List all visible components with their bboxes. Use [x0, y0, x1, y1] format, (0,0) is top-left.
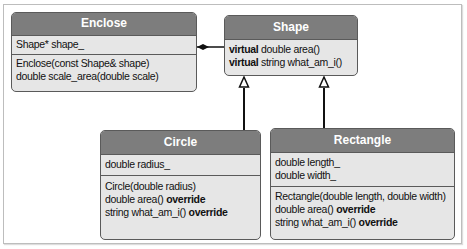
method: virtual double area() — [229, 43, 353, 56]
class-name: Shape — [225, 16, 357, 40]
composition-diamond-icon — [197, 44, 209, 50]
class-name: Rectangle — [271, 129, 454, 153]
class-name: Circle — [101, 131, 260, 155]
attributes-section: Shape* shape_ — [12, 36, 196, 54]
method: double area() override — [275, 203, 450, 216]
method: string what_am_i() override — [105, 206, 256, 219]
method: virtual string what_am_i() — [229, 56, 353, 69]
class-shape[interactable]: Shape virtual double area() virtual stri… — [224, 15, 358, 76]
method: double scale_area(double scale) — [16, 70, 192, 83]
method: double area() override — [105, 193, 256, 206]
attribute: double radius_ — [105, 158, 256, 171]
class-circle[interactable]: Circle double radius_ Circle(double radi… — [100, 130, 261, 240]
method: Enclose(const Shape& shape) — [16, 57, 192, 70]
methods-section: virtual double area() virtual string wha… — [225, 40, 357, 71]
methods-section: Rectangle(double length, double width) d… — [271, 186, 454, 231]
class-rectangle[interactable]: Rectangle double length_ double width_ R… — [270, 128, 455, 240]
methods-section: Circle(double radius) double area() over… — [101, 175, 260, 221]
attributes-section: double radius_ — [101, 155, 260, 175]
attribute: Shape* shape_ — [16, 38, 192, 51]
attribute: double width_ — [275, 169, 450, 182]
methods-section: Enclose(const Shape& shape) double scale… — [12, 54, 196, 85]
inheritance-arrow-icon — [240, 77, 249, 87]
method: Circle(double radius) — [105, 180, 256, 193]
attributes-section: double length_ double width_ — [271, 153, 454, 186]
class-name: Enclose — [12, 13, 196, 36]
method: Rectangle(double length, double width) — [275, 190, 450, 203]
class-enclose[interactable]: Enclose Shape* shape_ Enclose(const Shap… — [11, 12, 197, 92]
method: string what_am_i() override — [275, 216, 450, 229]
attribute: double length_ — [275, 156, 450, 169]
inheritance-arrow-icon — [320, 77, 329, 87]
